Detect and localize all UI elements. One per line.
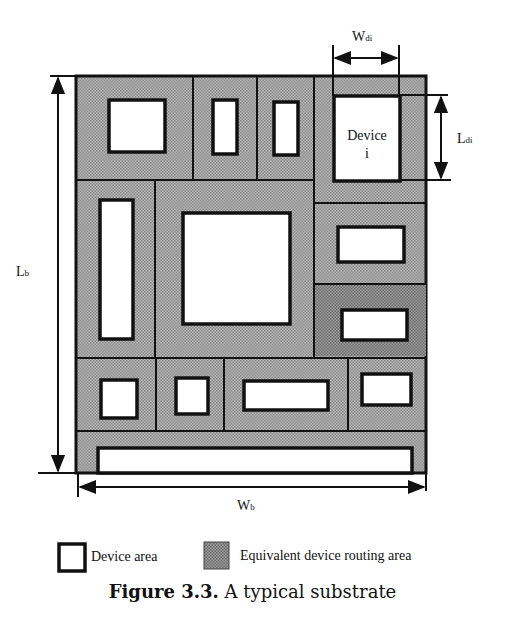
caption-text: A typical substrate <box>225 581 397 602</box>
device-box <box>109 100 165 152</box>
device-box <box>244 381 328 410</box>
device-box <box>183 213 290 324</box>
board-length-label: Lb <box>16 264 30 279</box>
legend-routing-area-swatch <box>204 542 229 569</box>
device-box <box>101 380 137 418</box>
device-i-label-line2: i <box>365 146 369 161</box>
device-box <box>176 378 208 414</box>
legend-device-area-label: Device area <box>91 549 157 565</box>
device-box <box>338 227 404 262</box>
legend-routing-area-label: Equivalent device routing area <box>240 548 411 564</box>
figure-caption: Figure 3.3. A typical substrate <box>0 581 505 602</box>
device-length-label: Ldi <box>457 131 473 146</box>
device-box <box>362 374 411 405</box>
device-box <box>98 448 412 473</box>
device-box <box>274 102 298 155</box>
board-width-label: Wb <box>237 498 255 513</box>
caption-number: Figure 3.3. <box>109 581 219 602</box>
device-box <box>213 100 237 154</box>
device-i-label-line1: Device <box>347 128 387 143</box>
legend-device-area-swatch <box>59 544 85 571</box>
substrate-diagram: Device i Lb Wb Wdi Ldi <box>0 0 505 620</box>
device-box <box>100 200 133 339</box>
device-box <box>342 310 407 340</box>
board-length-dimension <box>38 76 76 473</box>
board-width-dimension <box>78 473 426 497</box>
device-width-label: Wdi <box>352 29 373 44</box>
